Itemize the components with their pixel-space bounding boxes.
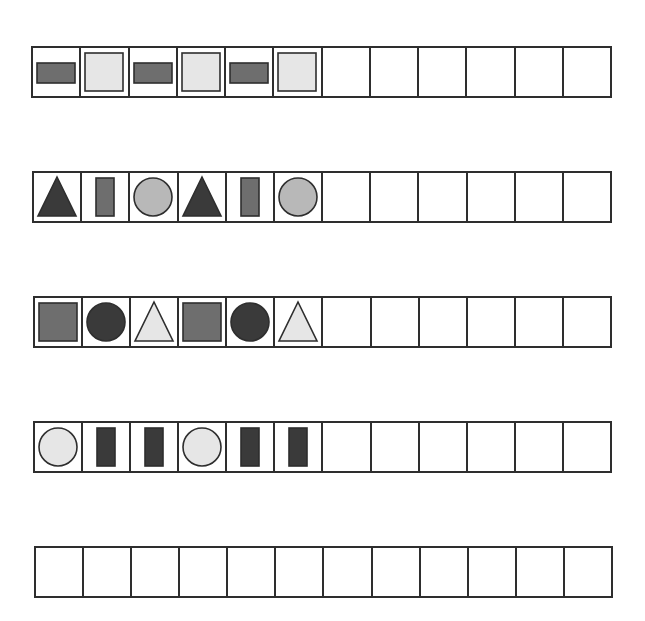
pattern-cell [227, 298, 275, 346]
empty-answer-cell[interactable] [371, 173, 419, 221]
wide-rectangle-medium-icon [131, 50, 175, 94]
square-pale-icon [275, 50, 319, 94]
empty-answer-cell[interactable] [323, 423, 371, 471]
square-pale-icon [82, 50, 126, 94]
empty-answer-cell[interactable] [421, 548, 469, 596]
tall-rectangle-medium-icon [83, 175, 127, 219]
pattern-cell [81, 48, 129, 96]
tall-rectangle-medium-icon [228, 175, 272, 219]
empty-answer-cell[interactable] [372, 298, 420, 346]
triangle-pale-icon [132, 300, 176, 344]
tall-rectangle-dark-icon [228, 425, 272, 469]
pattern-cell [131, 423, 179, 471]
triangle-dark-icon [180, 175, 224, 219]
empty-answer-cell[interactable] [180, 548, 228, 596]
pattern-cell [275, 173, 323, 221]
pattern-cell [83, 423, 131, 471]
empty-answer-cell[interactable] [84, 548, 132, 596]
empty-answer-cell[interactable] [36, 548, 84, 596]
pattern-cell [131, 298, 179, 346]
circle-dark-icon [84, 300, 128, 344]
empty-answer-cell[interactable] [372, 423, 420, 471]
pattern-row-3 [33, 296, 612, 348]
pattern-cell [130, 48, 178, 96]
empty-answer-cell[interactable] [132, 548, 180, 596]
pattern-cell [226, 48, 274, 96]
empty-answer-cell[interactable] [420, 423, 468, 471]
pattern-cell [35, 298, 83, 346]
circle-pale-icon [36, 425, 80, 469]
empty-answer-cell[interactable] [467, 48, 515, 96]
pattern-cell [130, 173, 178, 221]
tall-rectangle-dark-icon [276, 425, 320, 469]
empty-answer-cell[interactable] [516, 173, 564, 221]
pattern-cell [275, 298, 323, 346]
circle-light-icon [131, 175, 175, 219]
pattern-cell [33, 48, 81, 96]
empty-answer-cell[interactable] [371, 48, 419, 96]
pattern-cell [34, 173, 82, 221]
circle-light-icon [276, 175, 320, 219]
empty-answer-cell[interactable] [323, 298, 371, 346]
empty-answer-cell[interactable] [468, 423, 516, 471]
empty-answer-cell[interactable] [516, 48, 564, 96]
empty-answer-cell[interactable] [324, 548, 372, 596]
pattern-cell [179, 173, 227, 221]
empty-answer-cell[interactable] [565, 548, 611, 596]
empty-answer-cell[interactable] [469, 548, 517, 596]
pattern-cell [83, 298, 131, 346]
pattern-cell [35, 423, 83, 471]
empty-answer-cell[interactable] [420, 298, 468, 346]
pattern-cell [275, 423, 323, 471]
empty-answer-cell[interactable] [323, 48, 371, 96]
empty-answer-cell[interactable] [373, 548, 421, 596]
empty-answer-cell[interactable] [516, 423, 564, 471]
square-medium-icon [180, 300, 224, 344]
square-pale-icon [179, 50, 223, 94]
wide-rectangle-medium-icon [34, 50, 78, 94]
pattern-cell [179, 423, 227, 471]
circle-pale-icon [180, 425, 224, 469]
pattern-cell [179, 298, 227, 346]
pattern-row-1 [31, 46, 612, 98]
tall-rectangle-dark-icon [132, 425, 176, 469]
triangle-dark-icon [35, 175, 79, 219]
empty-answer-cell[interactable] [564, 173, 610, 221]
empty-answer-cell[interactable] [516, 298, 564, 346]
empty-answer-cell[interactable] [564, 423, 610, 471]
pattern-cell [82, 173, 130, 221]
pattern-cell [274, 48, 322, 96]
pattern-row-5 [34, 546, 613, 598]
triangle-pale-icon [276, 300, 320, 344]
empty-answer-cell[interactable] [468, 173, 516, 221]
empty-answer-cell[interactable] [564, 298, 610, 346]
empty-answer-cell[interactable] [276, 548, 324, 596]
empty-answer-cell[interactable] [468, 298, 516, 346]
circle-dark-icon [228, 300, 272, 344]
pattern-cell [227, 173, 275, 221]
empty-answer-cell[interactable] [517, 548, 565, 596]
empty-answer-cell[interactable] [419, 48, 467, 96]
pattern-cell [227, 423, 275, 471]
pattern-row-2 [32, 171, 612, 223]
pattern-row-4 [33, 421, 612, 473]
empty-answer-cell[interactable] [228, 548, 276, 596]
empty-answer-cell[interactable] [323, 173, 371, 221]
pattern-cell [178, 48, 226, 96]
wide-rectangle-medium-icon [227, 50, 271, 94]
empty-answer-cell[interactable] [419, 173, 467, 221]
square-medium-icon [36, 300, 80, 344]
empty-answer-cell[interactable] [564, 48, 610, 96]
tall-rectangle-dark-icon [84, 425, 128, 469]
